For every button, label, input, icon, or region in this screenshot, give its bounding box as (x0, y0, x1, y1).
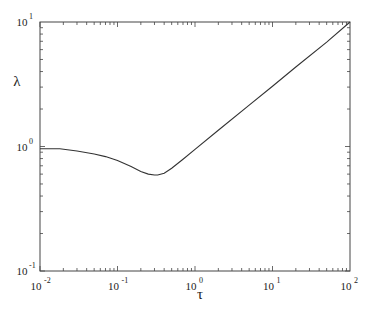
x-axis-label: τ (197, 286, 203, 302)
x-tick-exponent: -1 (122, 276, 129, 285)
x-tick-label: 10 (263, 280, 275, 292)
axis-ticks (40, 22, 350, 271)
x-tick-exponent: 1 (277, 276, 281, 285)
x-tick-label: 10 (186, 280, 198, 292)
y-tick-exponent: -1 (29, 261, 36, 270)
x-tick-exponent: 0 (199, 276, 203, 285)
x-tick-exponent: 2 (354, 276, 358, 285)
log-log-line-chart: 10-210-1100101102 10-1100101 τ λ (0, 0, 371, 310)
y-tick-label: 10 (17, 141, 29, 153)
y-tick-exponent: 1 (29, 12, 33, 21)
y-tick-label: 10 (17, 265, 29, 277)
plot-frame (40, 22, 350, 271)
y-tick-labels: 10-1100101 (17, 12, 36, 277)
x-tick-label: 10 (31, 280, 43, 292)
x-tick-labels: 10-210-1100101102 (31, 276, 359, 292)
y-axis-label: λ (13, 73, 21, 89)
y-tick-exponent: 0 (29, 137, 33, 146)
data-line (40, 22, 350, 175)
x-tick-label: 10 (108, 280, 120, 292)
x-tick-label: 10 (341, 280, 353, 292)
x-tick-exponent: -2 (44, 276, 51, 285)
y-tick-label: 10 (17, 16, 29, 28)
